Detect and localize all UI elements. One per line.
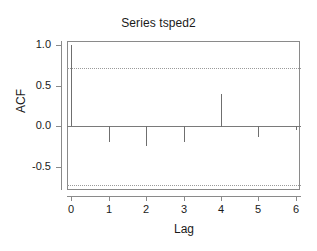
y-tick-label: 1.0 — [36, 38, 51, 50]
x-tick-label: 6 — [284, 203, 308, 215]
y-axis-line — [61, 41, 62, 190]
acf-spike — [296, 126, 297, 130]
plot-frame — [67, 41, 300, 190]
x-tick-mark — [109, 196, 110, 201]
x-tick-label: 4 — [209, 203, 233, 215]
page-title: Series tsped2 — [0, 16, 317, 30]
acf-spike — [258, 126, 259, 137]
x-tick-label: 0 — [59, 203, 83, 215]
x-tick-mark — [146, 196, 147, 201]
acf-spike — [184, 126, 185, 142]
y-axis-label: ACF — [14, 71, 28, 131]
x-tick-mark — [221, 196, 222, 201]
acf-plot: Series tsped2 ACF Lag 1.00.50.0-0.5 0123… — [0, 0, 317, 251]
acf-spike — [146, 126, 147, 146]
x-tick-mark — [258, 196, 259, 201]
y-tick-label: 0.5 — [36, 79, 51, 91]
y-tick-mark — [56, 45, 61, 46]
x-tick-label: 3 — [172, 203, 196, 215]
acf-spike — [71, 45, 72, 126]
y-tick-label: 0.0 — [36, 119, 51, 131]
y-tick-mark — [56, 86, 61, 87]
x-tick-label: 1 — [97, 203, 121, 215]
x-tick-mark — [296, 196, 297, 201]
acf-spike — [221, 94, 222, 127]
x-tick-label: 2 — [134, 203, 158, 215]
x-axis-label: Lag — [67, 222, 301, 236]
confidence-band-line — [67, 185, 301, 186]
confidence-band-line — [67, 68, 301, 69]
acf-spike — [109, 126, 110, 142]
y-tick-mark — [56, 167, 61, 168]
x-tick-mark — [184, 196, 185, 201]
x-tick-label: 5 — [246, 203, 270, 215]
y-tick-mark — [56, 126, 61, 127]
y-tick-label: -0.5 — [32, 160, 51, 172]
x-tick-mark — [71, 196, 72, 201]
